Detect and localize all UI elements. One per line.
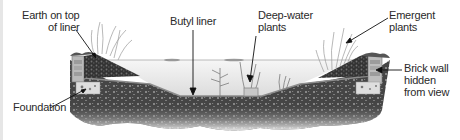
- label-earth-on-top-of-liner: Earth on top of liner: [22, 9, 80, 33]
- label-brick-wall-hidden: Brick wall hidden from view: [404, 62, 449, 98]
- label-line: Earth on top: [22, 9, 80, 21]
- label-deep-water-plants: Deep-water plants: [258, 9, 313, 33]
- label-butyl-liner: Butyl liner: [170, 15, 216, 27]
- label-foundation: Foundation: [13, 101, 66, 113]
- label-line: of liner: [22, 21, 80, 33]
- label-emergent-plants: Emergent plants: [389, 9, 435, 33]
- label-line: from view: [404, 86, 449, 98]
- label-line: plants: [258, 21, 313, 33]
- left-reeds: [91, 22, 132, 60]
- label-line: hidden: [404, 74, 449, 86]
- label-line: Deep-water: [258, 9, 313, 21]
- label-line: Brick wall: [404, 62, 449, 74]
- label-line: Emergent: [389, 9, 435, 21]
- label-line: plants: [389, 21, 435, 33]
